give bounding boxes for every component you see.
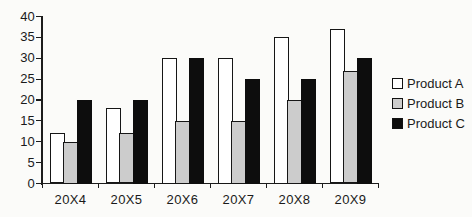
bar-product-c-20x7 xyxy=(245,79,260,183)
y-tick-label: 20 xyxy=(2,93,35,107)
legend-item-product-c: Product C xyxy=(392,117,465,130)
y-tick-label: 30 xyxy=(2,51,35,65)
bar-product-c-20x5 xyxy=(133,100,148,184)
x-category-label-20x8: 20X8 xyxy=(267,193,323,207)
x-tick xyxy=(322,184,323,188)
y-tick-label: 0 xyxy=(2,177,35,191)
y-tick-label: 10 xyxy=(2,135,35,149)
y-tick-label: 25 xyxy=(2,72,35,86)
y-tick xyxy=(36,99,41,100)
x-tick xyxy=(154,184,155,188)
legend: Product A Product B Product C xyxy=(392,77,465,137)
y-tick-label: 15 xyxy=(2,114,35,128)
y-axis-line xyxy=(41,16,43,185)
x-category-label-20x7: 20X7 xyxy=(211,193,267,207)
x-tick xyxy=(210,184,211,188)
y-tick xyxy=(36,16,41,17)
x-tick xyxy=(378,184,379,188)
y-tick xyxy=(36,79,41,80)
y-tick xyxy=(36,37,41,38)
legend-swatch-product-b xyxy=(392,98,403,109)
bar-product-c-20x9 xyxy=(357,58,372,183)
legend-item-product-a: Product A xyxy=(392,77,465,90)
x-tick xyxy=(98,184,99,188)
legend-label-product-a: Product A xyxy=(407,77,463,90)
bar-chart: 051015202530354020X420X520X620X720X820X9… xyxy=(0,0,472,217)
y-tick xyxy=(36,162,41,163)
x-category-label-20x6: 20X6 xyxy=(155,193,211,207)
bar-product-c-20x6 xyxy=(189,58,204,183)
y-tick-label: 5 xyxy=(2,156,35,170)
legend-item-product-b: Product B xyxy=(392,97,465,110)
bar-product-c-20x4 xyxy=(77,100,92,184)
x-category-label-20x5: 20X5 xyxy=(99,193,155,207)
y-tick-label: 40 xyxy=(2,10,35,24)
y-tick xyxy=(36,141,41,142)
bar-product-c-20x8 xyxy=(301,79,316,183)
y-tick xyxy=(36,58,41,59)
legend-label-product-c: Product C xyxy=(407,117,465,130)
x-tick xyxy=(42,184,43,188)
x-category-label-20x9: 20X9 xyxy=(323,193,379,207)
y-tick xyxy=(36,120,41,121)
legend-label-product-b: Product B xyxy=(407,97,464,110)
legend-swatch-product-a xyxy=(392,78,403,89)
legend-swatch-product-c xyxy=(392,118,403,129)
y-tick-label: 35 xyxy=(2,30,35,44)
x-tick xyxy=(266,184,267,188)
x-category-label-20x4: 20X4 xyxy=(43,193,99,207)
